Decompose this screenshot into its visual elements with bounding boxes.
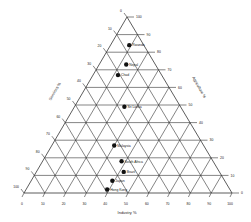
point-marker	[112, 143, 116, 147]
bottom-tick-label: 80	[187, 202, 191, 206]
bottom-tick-label: 50	[124, 202, 128, 206]
right-tick-label: 0	[241, 191, 243, 195]
data-point: Sri Lanka	[122, 105, 142, 109]
right-axis-label: Agriculture %	[191, 76, 207, 99]
right-tick-label: 70	[168, 68, 172, 72]
point-marker	[110, 178, 114, 182]
right-tick-label: 20	[220, 156, 224, 160]
point-marker	[105, 187, 109, 191]
data-point: Rwanda	[127, 43, 145, 47]
point-marker	[116, 73, 120, 77]
left-tick-label: 70	[46, 132, 50, 136]
left-tick-label: 10	[108, 27, 112, 31]
right-tick-label: 30	[210, 138, 214, 142]
left-tick-label: 80	[36, 150, 40, 154]
left-tick-label: 20	[98, 44, 102, 48]
right-tick-label: 80	[157, 50, 161, 54]
point-marker	[122, 170, 126, 174]
right-tick-label: 90	[147, 33, 151, 37]
right-tick-label: 10	[231, 174, 235, 178]
right-tick-label: 60	[178, 86, 182, 90]
point-label: Malaysia	[117, 144, 130, 148]
point-label: Nepal	[129, 63, 138, 67]
left-tick-label: 100	[13, 185, 19, 189]
bottom-tick-label: 20	[62, 202, 66, 206]
left-tick-label: 30	[87, 62, 91, 66]
left-axis-label: Services %	[48, 81, 63, 101]
right-tick-label: 100	[136, 15, 142, 19]
data-point: Nepal	[124, 62, 138, 66]
left-tick-label: 50	[67, 97, 71, 101]
data-point: Chad	[116, 73, 129, 77]
point-label: Rwanda	[132, 43, 145, 47]
bottom-axis-label: Industry %	[118, 210, 137, 215]
data-point: Japan	[110, 178, 125, 182]
right-tick-label: 40	[199, 121, 203, 125]
left-tick-label: 90	[26, 167, 30, 171]
data-point: Hong Kong	[105, 187, 127, 191]
bottom-tick-label: 30	[83, 202, 87, 206]
bottom-tick-label: 0	[21, 202, 23, 206]
data-point: Brazil	[122, 170, 136, 174]
left-tick-label: 60	[56, 115, 60, 119]
bottom-tick-label: 70	[166, 202, 170, 206]
data-point: South Africa	[119, 159, 143, 163]
point-label: South Africa	[125, 160, 143, 164]
point-label: Brazil	[127, 170, 136, 174]
point-label: Chad	[121, 73, 129, 77]
point-marker	[122, 105, 126, 109]
point-marker	[127, 43, 131, 47]
left-tick-label: 40	[77, 79, 81, 83]
point-label: Japan	[115, 179, 124, 183]
ternary-chart: 0001010102020203030304040405050506060607…	[0, 0, 251, 222]
data-point: Malaysia	[112, 143, 131, 147]
data-points: RwandaNepalChadSri LankaMalaysiaSouth Af…	[105, 43, 145, 192]
point-label: Sri Lanka	[127, 105, 141, 109]
left-tick-label: 0	[120, 9, 122, 13]
bottom-tick-label: 60	[145, 202, 149, 206]
bottom-tick-label: 10	[41, 202, 45, 206]
point-marker	[124, 62, 128, 66]
bottom-tick-label: 90	[207, 202, 211, 206]
bottom-tick-label: 40	[103, 202, 107, 206]
point-label: Hong Kong	[110, 188, 127, 192]
point-marker	[119, 159, 123, 163]
right-tick-label: 50	[189, 103, 193, 107]
bottom-tick-label: 100	[227, 202, 233, 206]
